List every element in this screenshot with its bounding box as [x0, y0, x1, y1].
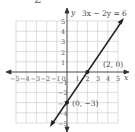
- x-axis-label: x: [124, 73, 129, 82]
- svg-text:4: 4: [61, 28, 65, 36]
- x-axis: [6, 70, 129, 74]
- y-tick-labels: 5 4 3 2 1 −1 −2 −3 −4 −5: [58, 18, 68, 128]
- point-label-0-neg3: (0, −3): [72, 99, 99, 108]
- svg-text:5: 5: [61, 18, 65, 26]
- svg-text:−3: −3: [31, 75, 41, 83]
- y-axis-label: y: [70, 8, 76, 17]
- svg-text:4: 4: [106, 75, 110, 83]
- point-0-neg3: [65, 101, 69, 105]
- svg-text:3: 3: [61, 38, 65, 46]
- svg-text:−4: −4: [20, 75, 30, 83]
- svg-text:2: 2: [61, 49, 65, 57]
- svg-text:5: 5: [116, 75, 120, 83]
- svg-text:−1: −1: [58, 79, 68, 87]
- svg-text:1: 1: [76, 75, 80, 83]
- point-label-2-0: (2, 0): [103, 60, 123, 69]
- svg-text:1: 1: [61, 59, 65, 67]
- svg-text:−2: −2: [58, 89, 68, 97]
- equation-label: 3x − 2y = 6: [82, 9, 127, 18]
- svg-text:−2: −2: [41, 75, 51, 83]
- svg-text:3: 3: [96, 75, 100, 83]
- svg-text:2: 2: [86, 75, 90, 83]
- coordinate-graph: −5 −4 −3 −2 −1 0 1 2 3 4 5 x 5 4 3 2 1 −…: [0, 0, 135, 132]
- svg-text:−5: −5: [10, 75, 20, 83]
- point-2-0: [85, 70, 89, 74]
- svg-text:−5: −5: [58, 120, 68, 128]
